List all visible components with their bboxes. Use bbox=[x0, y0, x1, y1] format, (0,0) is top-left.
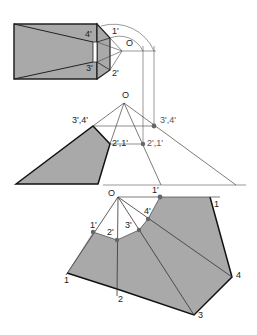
label-dev-1-left: 1 bbox=[64, 276, 69, 285]
label-top-1: 1' bbox=[112, 27, 119, 36]
true-length-point-21 bbox=[141, 142, 145, 146]
label-top-apex: O bbox=[126, 39, 133, 48]
label-front-right-21: 2',1' bbox=[147, 139, 163, 148]
front-view-section bbox=[16, 126, 110, 184]
label-dev-3: 3 bbox=[198, 311, 203, 320]
top-view-opening bbox=[93, 42, 97, 62]
label-front-apex: O bbox=[122, 91, 129, 100]
label-top-2: 2' bbox=[112, 69, 119, 78]
label-front-right-34: 3',4' bbox=[160, 116, 176, 125]
label-dev-1prime-top: 1' bbox=[152, 186, 159, 195]
label-top-3: 3' bbox=[86, 64, 93, 73]
true-length-point-34 bbox=[152, 124, 157, 129]
label-dev-2prime: 2' bbox=[107, 228, 114, 237]
diagram-canvas bbox=[0, 0, 257, 335]
label-front-left-21: 2',1' bbox=[112, 139, 128, 148]
label-dev-4prime: 4' bbox=[144, 207, 151, 216]
top-view-frustum bbox=[97, 24, 110, 79]
label-top-4: 4' bbox=[85, 30, 92, 39]
label-dev-4: 4 bbox=[236, 271, 241, 280]
label-dev-3prime: 3' bbox=[125, 221, 132, 230]
label-dev-apex: O bbox=[108, 189, 115, 198]
label-dev-1-right: 1 bbox=[214, 200, 219, 209]
label-dev-1prime-left: 1' bbox=[90, 221, 97, 230]
front-view bbox=[16, 103, 246, 185]
label-dev-2: 2 bbox=[118, 295, 123, 304]
label-front-left-34: 3',4' bbox=[72, 116, 88, 125]
